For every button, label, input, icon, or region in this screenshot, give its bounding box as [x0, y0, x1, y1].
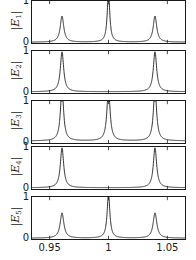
- y-tick-top-panel-3: 1: [17, 96, 29, 106]
- multi-panel-spectrum-figure: |E1|10|E2|10|E3|10|E4|10|E5|100.9511.05: [0, 0, 196, 260]
- plot-area-panel-3: [31, 100, 186, 144]
- y-label-prefix: |E: [9, 119, 22, 131]
- y-axis-label-panel-3: |E3|: [10, 108, 21, 134]
- panel-2: |E2|10: [0, 50, 196, 94]
- spectrum-curve-1: [32, 1, 185, 42]
- spectrum-curve-2: [32, 52, 185, 92]
- x-tick-label-3: 1.05: [147, 243, 187, 253]
- panel-4: |E4|10: [0, 146, 196, 190]
- plot-area-panel-5: [31, 196, 186, 240]
- spectrum-curve-4: [32, 148, 185, 188]
- plot-area-panel-4: [31, 146, 186, 190]
- y-tick-bottom-panel-5: 0: [17, 233, 29, 243]
- y-axis-label-panel-4: |E4|: [10, 154, 21, 180]
- spectrum-curve-3: [32, 101, 185, 141]
- y-tick-top-panel-5: 1: [17, 192, 29, 202]
- y-label-prefix: |E: [9, 69, 22, 81]
- y-label-index: 3: [15, 114, 23, 118]
- plot-area-panel-1: [31, 0, 186, 44]
- y-axis-label-panel-1: |E1|: [10, 8, 21, 34]
- y-axis-label-panel-2: |E2|: [10, 58, 21, 84]
- y-label-index: 1: [15, 14, 23, 18]
- x-tick-label-1: 0.95: [30, 243, 70, 253]
- y-axis-label-panel-5: |E5|: [10, 204, 21, 230]
- x-tick-label-2: 1: [89, 243, 129, 253]
- y-label-prefix: |E: [9, 165, 22, 177]
- y-label-index: 4: [15, 160, 23, 164]
- spectrum-curve-5: [32, 197, 185, 238]
- x-axis-tick-labels: 0.9511.05: [0, 243, 196, 257]
- y-label-prefix: |E: [9, 215, 22, 227]
- y-tick-top-panel-4: 1: [17, 142, 29, 152]
- y-label-index: 5: [15, 210, 23, 214]
- panel-1: |E1|10: [0, 0, 196, 44]
- y-tick-top-panel-2: 1: [17, 46, 29, 56]
- panel-5: |E5|10: [0, 196, 196, 240]
- y-label-index: 2: [15, 64, 23, 68]
- y-label-prefix: |E: [9, 19, 22, 31]
- y-tick-top-panel-1: 1: [17, 0, 29, 6]
- panel-3: |E3|10: [0, 100, 196, 144]
- plot-area-panel-2: [31, 50, 186, 94]
